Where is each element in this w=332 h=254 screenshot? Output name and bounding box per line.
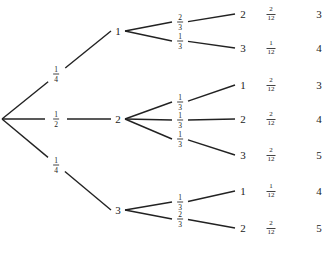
fraction-numerator: 1 xyxy=(177,94,183,102)
fraction-denominator: 12 xyxy=(267,156,276,163)
joint-probability: 212 xyxy=(267,147,276,163)
fraction-denominator: 12 xyxy=(267,49,276,56)
conditional-probability: 13 xyxy=(177,131,183,148)
outcome-sum: 5 xyxy=(316,223,322,234)
fraction-numerator: 2 xyxy=(268,220,274,227)
second-level-branch xyxy=(188,85,235,101)
fraction-numerator: 2 xyxy=(268,147,274,154)
leaf-node: 2 xyxy=(240,114,246,125)
conditional-probability: 23 xyxy=(177,14,183,31)
fraction-numerator: 1 xyxy=(53,66,59,74)
second-level-branch xyxy=(125,202,172,210)
outcome-sum: 3 xyxy=(316,80,322,91)
first-level-branch xyxy=(2,119,48,157)
leaf-node: 3 xyxy=(240,43,246,54)
conditional-probability: 13 xyxy=(177,94,183,111)
fraction-numerator: 2 xyxy=(177,14,183,22)
second-level-branch xyxy=(125,31,172,41)
leaf-node: 1 xyxy=(240,80,246,91)
second-level-branch xyxy=(188,191,235,201)
second-level-branch xyxy=(125,102,172,119)
fraction-denominator: 12 xyxy=(267,192,276,199)
first-level-branch xyxy=(2,82,48,119)
leaf-node: 2 xyxy=(240,223,246,234)
fraction-denominator: 12 xyxy=(267,229,276,236)
fraction-numerator: 2 xyxy=(268,111,274,118)
second-level-branch xyxy=(125,210,172,219)
first-level-branch xyxy=(65,31,111,68)
conditional-probability: 23 xyxy=(177,211,183,228)
conditional-probability: 13 xyxy=(177,194,183,211)
second-level-branch xyxy=(188,41,235,48)
first-level-probability: 14 xyxy=(53,66,59,83)
fraction-denominator: 3 xyxy=(177,220,183,228)
fraction-denominator: 2 xyxy=(53,120,59,128)
fraction-denominator: 4 xyxy=(53,75,59,83)
second-level-branch xyxy=(188,219,235,228)
first-level-node: 2 xyxy=(115,114,121,125)
second-level-branch xyxy=(188,14,235,22)
second-level-branch xyxy=(188,140,235,155)
fraction-numerator: 1 xyxy=(268,183,274,190)
leaf-node: 2 xyxy=(240,9,246,20)
joint-probability: 212 xyxy=(267,220,276,236)
fraction-denominator: 12 xyxy=(267,86,276,93)
outcome-sum: 4 xyxy=(316,43,322,54)
first-level-node: 3 xyxy=(115,205,121,216)
fraction-denominator: 12 xyxy=(267,120,276,127)
fraction-denominator: 3 xyxy=(177,121,183,129)
outcome-sum: 4 xyxy=(316,114,322,125)
fraction-denominator: 3 xyxy=(177,42,183,50)
fraction-denominator: 3 xyxy=(177,103,183,111)
conditional-probability: 13 xyxy=(177,112,183,129)
joint-probability: 112 xyxy=(267,183,276,199)
tree-edges xyxy=(0,0,332,254)
fraction-numerator: 1 xyxy=(177,33,183,41)
leaf-node: 3 xyxy=(240,150,246,161)
fraction-numerator: 2 xyxy=(268,77,274,84)
first-level-probability: 14 xyxy=(53,157,59,174)
fraction-denominator: 12 xyxy=(267,15,276,22)
second-level-branch xyxy=(125,119,172,139)
outcome-sum: 4 xyxy=(316,186,322,197)
fraction-numerator: 2 xyxy=(177,211,183,219)
fraction-denominator: 3 xyxy=(177,23,183,31)
first-level-node: 1 xyxy=(115,26,121,37)
leaf-node: 1 xyxy=(240,186,246,197)
fraction-numerator: 1 xyxy=(53,111,59,119)
first-level-branch xyxy=(65,172,111,210)
joint-probability: 112 xyxy=(267,40,276,56)
conditional-probability: 13 xyxy=(177,33,183,50)
first-level-probability: 12 xyxy=(53,111,59,128)
joint-probability: 212 xyxy=(267,111,276,127)
second-level-branch xyxy=(125,119,172,120)
outcome-sum: 3 xyxy=(316,9,322,20)
joint-probability: 212 xyxy=(267,6,276,22)
outcome-sum: 5 xyxy=(316,150,322,161)
fraction-numerator: 1 xyxy=(177,112,183,120)
fraction-numerator: 1 xyxy=(177,194,183,202)
fraction-numerator: 1 xyxy=(177,131,183,139)
fraction-numerator: 1 xyxy=(268,40,274,47)
probability-tree-diagram: 1411221432322123133112413121231322124133… xyxy=(0,0,332,254)
fraction-denominator: 3 xyxy=(177,140,183,148)
fraction-numerator: 2 xyxy=(268,6,274,13)
fraction-numerator: 1 xyxy=(53,157,59,165)
joint-probability: 212 xyxy=(267,77,276,93)
second-level-branch xyxy=(125,22,172,31)
fraction-denominator: 4 xyxy=(53,166,59,174)
second-level-branch xyxy=(188,119,235,120)
